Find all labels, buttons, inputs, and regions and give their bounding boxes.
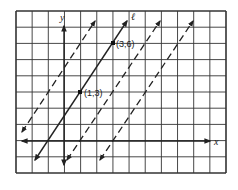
- point-3-6-label: (3,6): [116, 39, 135, 49]
- dashed-line-left: [22, 21, 95, 132]
- point-1-3: [78, 90, 82, 94]
- point-1-3-label: (1,3): [84, 88, 103, 98]
- y-axis-label: y: [59, 12, 65, 23]
- x-axis-label: x: [213, 136, 219, 147]
- line-l-label: ℓ: [131, 11, 135, 22]
- grid: [16, 11, 226, 173]
- point-3-6: [111, 41, 115, 45]
- coordinate-plane: x y (1,3) (3,6) ℓ: [0, 0, 238, 190]
